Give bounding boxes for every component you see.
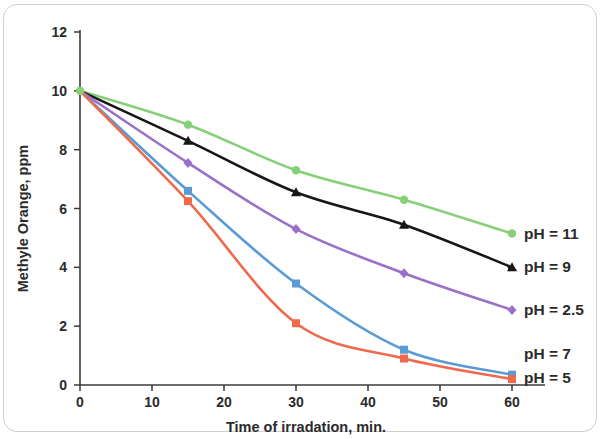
- data-marker: [292, 319, 300, 327]
- data-marker: [184, 120, 192, 128]
- x-tick-label: 20: [216, 394, 232, 410]
- line-chart: 0246810120102030405060Time of irradation…: [0, 0, 605, 439]
- x-tick-label: 50: [432, 394, 448, 410]
- series-label: pH = 7: [524, 345, 571, 362]
- data-marker: [400, 346, 408, 354]
- series-line: [80, 91, 512, 267]
- x-tick-label: 0: [76, 394, 84, 410]
- series-ph-9: [80, 91, 517, 272]
- data-marker: [76, 87, 84, 95]
- data-marker: [292, 166, 300, 174]
- y-tick-label: 12: [51, 24, 67, 40]
- y-tick-label: 8: [59, 142, 67, 158]
- x-axis-ticks: 0102030405060: [76, 385, 520, 410]
- series-label: pH = 9: [524, 258, 571, 275]
- series-line: [80, 91, 512, 234]
- x-axis-title: Time of irradation, min.: [226, 419, 386, 435]
- axes: [80, 30, 545, 385]
- y-axis-title: Methyle Orange, ppm: [15, 145, 31, 292]
- series-label: pH = 11: [524, 225, 579, 242]
- x-tick-label: 60: [504, 394, 520, 410]
- data-marker: [292, 224, 301, 234]
- series-line: [80, 91, 512, 310]
- y-tick-label: 0: [59, 377, 67, 393]
- data-marker: [184, 187, 192, 195]
- y-tick-label: 2: [59, 318, 67, 334]
- chart-figure: 0246810120102030405060Time of irradation…: [0, 0, 605, 439]
- y-axis-ticks: 024681012: [51, 24, 80, 393]
- series-label: pH = 5: [524, 369, 571, 386]
- data-marker: [400, 268, 409, 278]
- data-marker: [508, 305, 517, 315]
- series-annotations: pH = 11pH = 9pH = 2.5pH = 7pH = 5: [524, 225, 584, 386]
- x-tick-label: 10: [144, 394, 160, 410]
- data-marker: [508, 229, 516, 237]
- x-tick-label: 30: [288, 394, 304, 410]
- data-marker: [400, 355, 408, 363]
- data-marker: [292, 280, 300, 288]
- y-tick-label: 4: [59, 259, 67, 275]
- data-marker: [508, 375, 516, 383]
- data-marker: [184, 197, 192, 205]
- y-tick-label: 10: [51, 83, 67, 99]
- data-marker: [400, 195, 408, 203]
- series-ph-11: [80, 91, 516, 238]
- x-tick-label: 40: [360, 394, 376, 410]
- series-label: pH = 2.5: [524, 301, 584, 318]
- y-tick-label: 6: [59, 201, 67, 217]
